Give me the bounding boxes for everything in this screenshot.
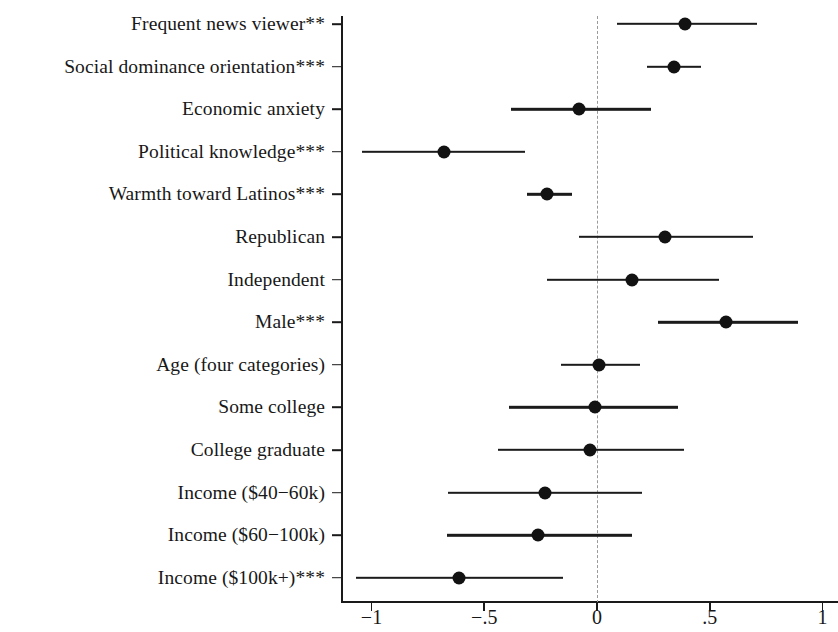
y-axis-tick bbox=[332, 449, 341, 451]
zero-reference-line bbox=[597, 16, 598, 603]
y-axis-line bbox=[341, 16, 343, 603]
point-estimate-marker bbox=[678, 18, 691, 31]
point-estimate-marker bbox=[658, 231, 671, 244]
point-estimate-marker bbox=[541, 188, 554, 201]
point-estimate-marker bbox=[532, 529, 545, 542]
y-axis-tick bbox=[332, 108, 341, 110]
y-axis-tick bbox=[332, 364, 341, 366]
y-axis-tick bbox=[332, 407, 341, 409]
y-axis-tick bbox=[332, 492, 341, 494]
point-estimate-marker bbox=[437, 145, 450, 158]
point-estimate-marker bbox=[453, 571, 466, 584]
point-estimate-marker bbox=[539, 486, 552, 499]
x-axis-tick-label: −.5 bbox=[471, 606, 497, 628]
x-axis-tick-label: .5 bbox=[702, 606, 717, 628]
y-axis-tick bbox=[332, 577, 341, 579]
plot-area: −1−.50.51 bbox=[0, 0, 838, 632]
y-axis-tick bbox=[332, 66, 341, 68]
y-axis-tick bbox=[332, 23, 341, 25]
point-estimate-marker bbox=[588, 401, 601, 414]
x-axis-line bbox=[341, 601, 838, 603]
y-axis-tick bbox=[332, 151, 341, 153]
x-axis-tick-label: 0 bbox=[592, 606, 602, 628]
y-axis-tick bbox=[332, 236, 341, 238]
x-axis-tick-label: 1 bbox=[818, 606, 828, 628]
point-estimate-marker bbox=[593, 358, 606, 371]
y-axis-tick bbox=[332, 194, 341, 196]
point-estimate-marker bbox=[719, 316, 732, 329]
point-estimate-marker bbox=[667, 60, 680, 73]
y-axis-tick bbox=[332, 279, 341, 281]
point-estimate-marker bbox=[572, 103, 585, 116]
point-estimate-marker bbox=[625, 273, 638, 286]
point-estimate-marker bbox=[584, 444, 597, 457]
x-axis-tick-label: −1 bbox=[361, 606, 382, 628]
y-axis-tick bbox=[332, 534, 341, 536]
coefficient-plot-figure: Frequent news viewer**Social dominance o… bbox=[0, 0, 838, 632]
y-axis-tick bbox=[332, 321, 341, 323]
